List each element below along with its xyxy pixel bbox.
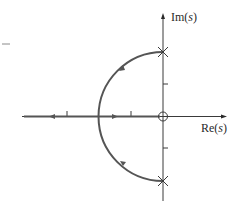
- root-locus-plot: [0, 0, 247, 209]
- root-locus-diagram: Im(s) Re(s): [0, 0, 247, 209]
- real-axis-label: Re(s): [201, 122, 227, 134]
- real-axis-arrow-icon: [221, 115, 227, 119]
- imag-axis-arrow-icon: [161, 13, 165, 19]
- locus-arrow-right-icon: [112, 114, 118, 119]
- imaginary-axis: [161, 13, 168, 201]
- imag-axis-label: Im(s): [171, 11, 197, 23]
- locus-arrow-left-icon: [49, 114, 55, 119]
- real-axis-locus: [24, 114, 160, 119]
